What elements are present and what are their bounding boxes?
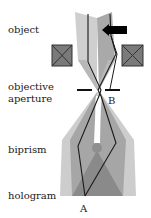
label-aperture: aperture: [8, 93, 52, 104]
biprism-wire: [92, 143, 102, 153]
lens-right-icon: [122, 45, 143, 66]
point-label-a: A: [79, 203, 88, 214]
label-hologram: hologram: [8, 190, 56, 201]
point-label-b: B: [108, 95, 115, 106]
label-biprism: biprism: [8, 144, 47, 155]
label-objective: objective: [8, 81, 54, 92]
holography-diagram: B A object objective aperture biprism ho…: [0, 0, 151, 218]
aperture-bar-left: [77, 89, 92, 91]
lens-left-icon: [52, 45, 72, 66]
label-object: object: [8, 24, 39, 35]
aperture-bar-right: [105, 89, 120, 91]
